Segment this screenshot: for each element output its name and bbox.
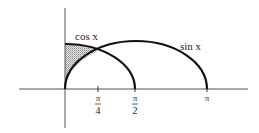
- tick-label-pi: π: [205, 93, 210, 103]
- tick-label-pi-over-4-num: π: [96, 93, 101, 103]
- tick-label-pi-over-2-num: π: [133, 93, 138, 103]
- tick-label-pi-over-4-den: 4: [96, 105, 101, 116]
- trig-area-diagram: cos x sin x π 4 π 2 π: [0, 0, 259, 133]
- cos-label: cos x: [75, 30, 98, 42]
- tick-label-pi-over-2-den: 2: [133, 105, 138, 116]
- sin-label: sin x: [180, 40, 202, 52]
